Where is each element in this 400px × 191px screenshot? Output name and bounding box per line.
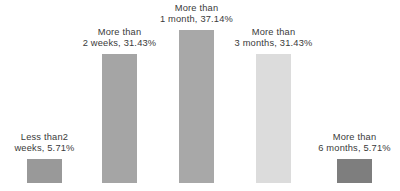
bar-label-5: More than 6 months, 5.71% <box>295 132 400 159</box>
bar-label-2-line2: 2 weeks, 31.43% <box>60 38 180 50</box>
plot-area: Less than2 weeks, 5.71% More than 2 week… <box>0 0 400 191</box>
bar-group-3: More than 1 month, 37.14% <box>179 30 214 183</box>
bar-label-5-line2: 6 months, 5.71% <box>295 143 400 155</box>
bar-2[interactable] <box>102 54 137 183</box>
bar-group-4: More than 3 months, 31.43% <box>256 30 291 183</box>
bar-label-3-line2: 1 month, 37.14% <box>137 14 257 26</box>
bar-label-5-line1: More than <box>295 132 400 144</box>
bar-label-1: Less than2 weeks, 5.71% <box>0 132 105 159</box>
bar-group-2: More than 2 weeks, 31.43% <box>102 30 137 183</box>
bar-label-3-line1: More than <box>137 3 257 15</box>
bar-label-4-line1: More than <box>214 27 334 39</box>
bar-1[interactable] <box>27 159 62 183</box>
bar-chart: Less than2 weeks, 5.71% More than 2 week… <box>0 0 400 191</box>
bar-label-1-line1: Less than2 <box>0 132 105 144</box>
bar-4[interactable] <box>256 54 291 183</box>
bar-3[interactable] <box>179 30 214 183</box>
bar-label-4: More than 3 months, 31.43% <box>214 27 334 54</box>
bar-group-5: More than 6 months, 5.71% <box>337 30 372 183</box>
bar-label-2: More than 2 weeks, 31.43% <box>60 27 180 54</box>
bar-group-1: Less than2 weeks, 5.71% <box>27 30 62 183</box>
bar-label-1-line2: weeks, 5.71% <box>0 143 105 155</box>
bar-label-4-line2: 3 months, 31.43% <box>214 38 334 50</box>
bar-5[interactable] <box>337 159 372 183</box>
